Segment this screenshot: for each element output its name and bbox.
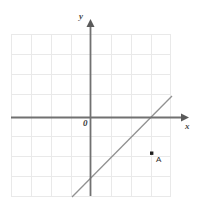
x-axis-label: x bbox=[185, 122, 190, 131]
coordinate-plane-figure: y x 0 A bbox=[0, 0, 202, 207]
coordinate-plane-svg bbox=[0, 0, 202, 207]
origin-label: 0 bbox=[83, 119, 88, 128]
point-a-label: A bbox=[156, 156, 161, 164]
data-line-series bbox=[72, 96, 172, 197]
y-axis-arrowhead-icon bbox=[87, 19, 95, 27]
y-axis-label: y bbox=[79, 12, 83, 21]
point-a-marker bbox=[150, 152, 153, 155]
